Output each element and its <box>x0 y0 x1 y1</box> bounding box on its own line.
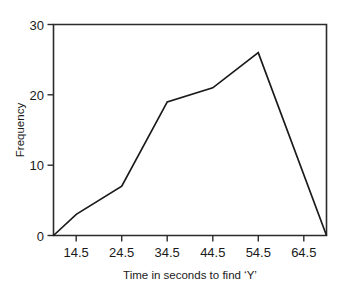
x-tick-label-14-5: 14.5 <box>64 245 89 260</box>
y-tick-label-30: 30 <box>30 18 44 33</box>
y-axis-title: Frequency <box>14 103 26 158</box>
chart-canvas: 0 10 20 30 14.5 24.5 34.5 44.5 54.5 64.5… <box>0 0 360 288</box>
x-tick-label-44-5: 44.5 <box>200 245 225 260</box>
frequency-polygon-line <box>54 53 327 236</box>
x-axis-title: Time in seconds to find ‘Y’ <box>123 269 257 281</box>
x-tick-label-64-5: 64.5 <box>291 245 316 260</box>
frequency-polygon-chart: 0 10 20 30 14.5 24.5 34.5 44.5 54.5 64.5… <box>0 0 360 288</box>
y-tick-label-0: 0 <box>37 229 44 244</box>
x-tick-label-34-5: 34.5 <box>155 245 180 260</box>
x-tick-label-24-5: 24.5 <box>109 245 134 260</box>
x-tick-label-54-5: 54.5 <box>246 245 271 260</box>
y-tick-label-20: 20 <box>30 88 44 103</box>
y-tick-label-10: 10 <box>30 158 44 173</box>
